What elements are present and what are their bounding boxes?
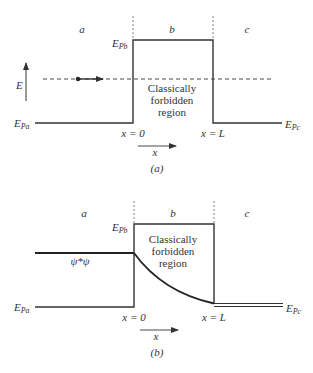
region-label-b: b — [170, 207, 176, 219]
left-level-label: EPa — [13, 117, 30, 131]
right-level-label: EPc — [284, 118, 301, 132]
particle-dot-icon — [76, 77, 80, 81]
barrier-energy-label: EPb — [111, 221, 128, 235]
region-label-a: a — [81, 207, 87, 219]
barrier-energy-label: EPb — [111, 37, 128, 51]
forbidden-text-line2: forbidden — [151, 94, 194, 106]
forbidden-text-line1: Classically — [149, 233, 198, 245]
psi-label: ψ*ψ — [70, 255, 89, 267]
forbidden-text-line1: Classically — [148, 82, 197, 94]
right-level-label: EPc — [285, 302, 302, 316]
left-level-label: EPa — [13, 301, 30, 315]
xL-label: x = L — [201, 311, 226, 323]
region-label-c: c — [245, 207, 250, 219]
region-label-c: c — [245, 23, 250, 35]
xL-label: x = L — [200, 127, 225, 139]
forbidden-text-line2: forbidden — [152, 245, 195, 257]
caption-b: (b) — [151, 346, 164, 359]
x-axis-label: x — [153, 330, 159, 342]
caption-a: (a) — [151, 162, 164, 175]
x0-label: x = 0 — [120, 127, 145, 139]
forbidden-text-line3: region — [158, 106, 187, 118]
energy-axis-label: E — [15, 79, 23, 91]
region-label-a: a — [79, 23, 85, 35]
tunneling-diagram: a b c EPb EPa EPc E Classically forbidde… — [0, 0, 313, 373]
region-label-b: b — [169, 23, 175, 35]
x0-label: x = 0 — [121, 311, 146, 323]
x-axis-label: x — [152, 146, 158, 158]
panel-a: a b c EPb EPa EPc E Classically forbidde… — [13, 16, 301, 175]
forbidden-text-line3: region — [159, 257, 188, 269]
panel-b: a b c ψ*ψ EPb EPa EPc Classically forbid… — [13, 201, 302, 359]
